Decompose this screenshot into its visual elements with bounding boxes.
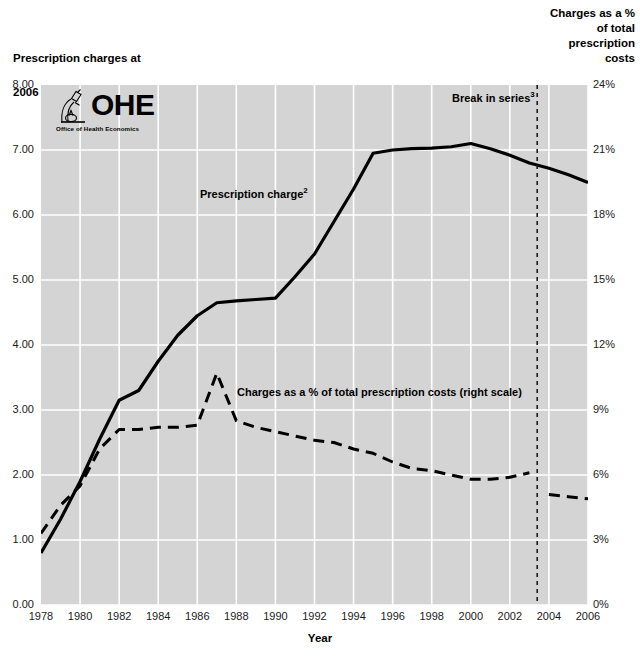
ohe-wordmark: OHE [91,90,155,120]
annotation-charges-percent: Charges as a % of total prescription cos… [237,386,522,398]
plot-svg [41,85,588,605]
right-axis-tick: 18% [593,208,615,220]
left-axis-tick: 3.00 [0,403,34,415]
annotation-prescription-charge: Prescription charge2 [200,186,308,200]
right-axis-tick: 12% [593,338,615,350]
x-axis-title: Year [0,632,640,644]
right-axis-tick: 15% [593,273,615,285]
left-axis-tick: 7.00 [0,143,34,155]
ohe-subtitle: Office of Health Economics [56,125,139,132]
left-axis-tick: 1.00 [0,533,34,545]
right-axis-tick: 0% [593,598,609,610]
left-axis-tick: 6.00 [0,208,34,220]
right-axis-tick: 3% [593,533,609,545]
x-axis-tick: 2006 [565,610,611,622]
annotation-break-text: Break in series [452,92,530,104]
plot-area [41,85,588,605]
ohe-logo: OHE Office of Health Economics [55,88,155,136]
annotation-prescription-charge-text: Prescription charge [200,188,303,200]
annotation-break-footnote: 3 [530,90,534,99]
annotation-prescription-charge-footnote: 2 [303,186,307,195]
annotation-break-in-series: Break in series3 [452,90,535,104]
ohe-microscope-icon [55,88,91,128]
right-axis-tick: 6% [593,468,609,480]
chart-figure: Prescription charges at 2006 prices1 (£)… [0,0,640,657]
right-axis-tick: 9% [593,403,609,415]
left-axis-tick: 2.00 [0,468,34,480]
left-axis-tick: 4.00 [0,338,34,350]
right-axis-tick: 24% [593,78,615,90]
left-axis-tick: 5.00 [0,273,34,285]
left-axis-tick: 8.00 [0,78,34,90]
right-axis-title: Charges as a % of total prescription cos… [495,6,635,66]
series-line-2 [549,495,588,499]
left-axis-tick: 0.00 [0,598,34,610]
left-axis-title-line1: Prescription charges at [13,52,141,64]
right-axis-tick: 21% [593,143,615,155]
